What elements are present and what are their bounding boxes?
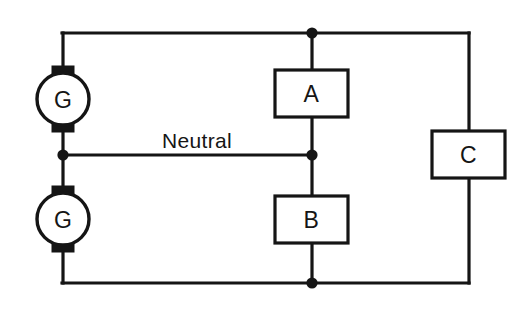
load-a: A bbox=[275, 70, 348, 117]
load-c-label: C bbox=[460, 142, 477, 168]
neutral-wire-label: Neutral bbox=[162, 129, 232, 152]
junction-layer bbox=[57, 27, 317, 288]
circuit-diagram: G G A B C N bbox=[0, 0, 530, 310]
load-c: C bbox=[432, 131, 505, 178]
load-b-label: B bbox=[304, 207, 320, 233]
load-a-label: A bbox=[304, 81, 320, 107]
generator-bottom-label: G bbox=[54, 207, 72, 233]
circuit-canvas: G G A B C N bbox=[0, 0, 530, 310]
node-top-center bbox=[306, 27, 317, 38]
generator-top: G bbox=[37, 66, 89, 132]
load-b: B bbox=[275, 196, 348, 243]
generator-top-label: G bbox=[54, 87, 72, 113]
wire-layer bbox=[62, 33, 469, 283]
generator-bottom: G bbox=[37, 186, 89, 252]
node-neutral-left bbox=[57, 149, 68, 160]
node-bottom-center bbox=[306, 277, 317, 288]
node-neutral-center bbox=[306, 149, 317, 160]
